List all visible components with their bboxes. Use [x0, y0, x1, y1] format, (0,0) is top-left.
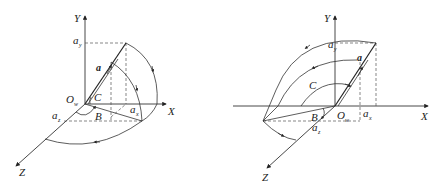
z-axis — [267, 106, 335, 168]
outer-arc-lower — [142, 104, 157, 121]
x-axis-label: X — [420, 110, 429, 122]
origin-subscript: w — [345, 117, 349, 123]
vector-a-label: a — [357, 52, 362, 63]
y-axis-label: Y — [74, 12, 82, 24]
diagram-canvas: Y X Z O w a C B a y a z — [0, 0, 441, 190]
left-diagram: Y X Z O w a C B a y a z — [16, 12, 176, 178]
angle-c-label: C — [94, 91, 102, 103]
outer-arc — [126, 43, 157, 104]
origin-subscript: w — [74, 101, 78, 107]
z-axis — [16, 104, 85, 166]
vector-a — [85, 43, 126, 104]
origin-label: O — [66, 93, 74, 105]
middle-arc — [278, 60, 357, 106]
ay-subscript: y — [333, 46, 337, 52]
origin-label: O — [337, 109, 345, 121]
z-axis-label: Z — [262, 171, 269, 183]
vector-a — [335, 43, 376, 106]
arc-arrow-2 — [136, 85, 137, 90]
ax-subscript: x — [368, 115, 372, 121]
x-axis-label: X — [167, 105, 176, 117]
vector-a-label: a — [96, 62, 101, 73]
ay-subscript: y — [78, 42, 82, 48]
z-axis-label: Z — [19, 166, 26, 178]
ax-subscript: x — [135, 111, 139, 117]
angle-c-label: C — [309, 79, 317, 91]
angle-b-label: B — [95, 110, 102, 122]
left-side-line-1 — [263, 90, 276, 121]
bottom-arc — [45, 121, 142, 144]
vector-a-parallel — [88, 59, 118, 104]
arc-arrow-1 — [306, 45, 310, 48]
bottom-arc — [263, 121, 296, 140]
angle-b-arc — [76, 107, 95, 115]
arc-arrow-4 — [278, 133, 283, 136]
vector-a-parallel — [338, 60, 368, 106]
ax-diagonal-line — [111, 104, 126, 117]
arc-arrow-2 — [313, 66, 318, 68]
az-subscript: z — [57, 117, 61, 123]
y-axis-label: Y — [324, 12, 332, 24]
az-subscript: z — [317, 129, 321, 135]
right-diagram: Y X Z O w a C B a y a — [233, 12, 429, 183]
